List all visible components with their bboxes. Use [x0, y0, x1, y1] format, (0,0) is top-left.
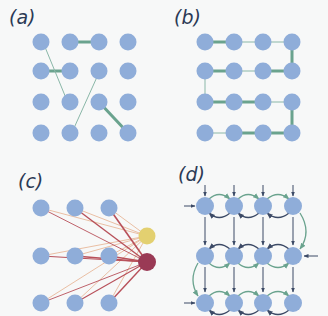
panel-b-nodes	[197, 34, 301, 142]
panel-b-edges	[205, 42, 292, 133]
maroon-output-node	[138, 253, 156, 271]
panel-d-vertical-arrows	[205, 217, 293, 292]
panel-a-edges	[41, 42, 128, 133]
panel-d-nodes	[196, 197, 302, 312]
panel-b	[197, 34, 301, 142]
yellow-output-node	[139, 228, 156, 245]
diagram-canvas	[0, 0, 328, 316]
panel-c-edges-to-maroon	[41, 208, 147, 303]
panel-c	[33, 200, 157, 312]
panel-d	[184, 185, 318, 315]
panel-c-input-nodes	[33, 200, 118, 312]
panel-a	[33, 34, 137, 142]
